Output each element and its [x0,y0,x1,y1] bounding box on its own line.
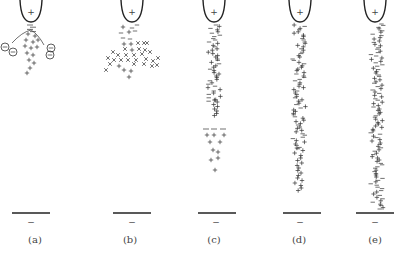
svg-text:+: + [296,7,304,17]
panel-label-c: (c) [207,234,220,245]
svg-text:+: + [371,7,379,17]
cathode-sign-c: − [212,217,220,227]
streamer-discharge-figure: +++++ (a) (b) (c) (d) (e) − − − − − [0,0,394,255]
cathode-sign-e: − [371,217,379,227]
svg-text:+: + [128,7,136,17]
panel-label-a: (a) [28,234,42,245]
panel-label-e: (e) [368,234,382,245]
electrodes: +++++ [12,0,394,213]
svg-text:+: + [210,7,218,17]
space-charges [1,23,385,210]
panel-label-d: (d) [292,234,306,245]
cathode-sign-d: − [296,217,304,227]
cathode-sign-a: − [27,217,35,227]
panel-label-b: (b) [123,234,137,245]
diagram-canvas: +++++ [0,0,394,255]
svg-text:+: + [27,7,35,17]
cathode-sign-b: − [128,217,136,227]
